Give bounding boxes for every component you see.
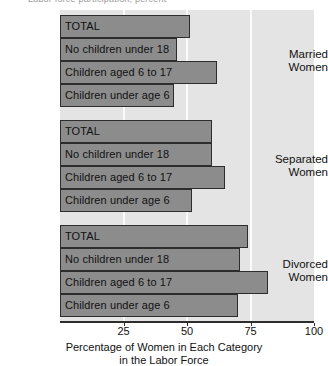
- x-tick-label-50: 50: [181, 325, 193, 337]
- bar-row: Children under age 6: [60, 189, 314, 212]
- bar-label: Children aged 6 to 17: [65, 271, 172, 294]
- bar-label: Children under age 6: [65, 84, 170, 107]
- x-tick-label-75: 75: [244, 325, 256, 337]
- x-tick-label-25: 25: [117, 325, 129, 337]
- bar-row: TOTAL: [60, 225, 314, 248]
- bar-row: TOTAL: [60, 15, 314, 38]
- bar-row: Children under age 6: [60, 294, 314, 317]
- bar-label: TOTAL: [65, 225, 100, 248]
- bar-row: TOTAL: [60, 120, 314, 143]
- x-axis-title-line1: Percentage of Women in Each Category: [0, 341, 328, 354]
- bar-chart-figure: Labor force participation, percent TOTAL…: [0, 0, 328, 366]
- bar-label: No children under 18: [65, 143, 169, 166]
- bar-label: No children under 18: [65, 38, 169, 61]
- bar-label: No children under 18: [65, 248, 169, 271]
- bar-row: Children under age 6: [60, 84, 314, 107]
- category-label-line2: Women: [272, 166, 328, 179]
- x-tick-label-100: 100: [305, 325, 323, 337]
- category-label-separated: SeparatedWomen: [272, 153, 328, 179]
- bar-label: Children aged 6 to 17: [65, 61, 172, 84]
- bar-label: Children aged 6 to 17: [65, 166, 172, 189]
- category-label-divorced: DivorcedWomen: [272, 258, 328, 284]
- bar-label: Children under age 6: [65, 189, 170, 212]
- category-label-line2: Women: [272, 271, 328, 284]
- category-label-line1: Divorced: [272, 258, 328, 271]
- category-label-line1: Married: [272, 48, 328, 61]
- bar-label: Children under age 6: [65, 294, 170, 317]
- x-axis-title: Percentage of Women in Each Category in …: [0, 341, 328, 366]
- category-label-married: MarriedWomen: [272, 48, 328, 74]
- top-caption: Labor force participation, percent: [28, 0, 298, 4]
- category-label-line1: Separated: [272, 153, 328, 166]
- bar-label: TOTAL: [65, 120, 100, 143]
- x-axis-title-line2: in the Labor Force: [0, 354, 328, 366]
- category-label-line2: Women: [272, 61, 328, 74]
- bar-label: TOTAL: [65, 15, 100, 38]
